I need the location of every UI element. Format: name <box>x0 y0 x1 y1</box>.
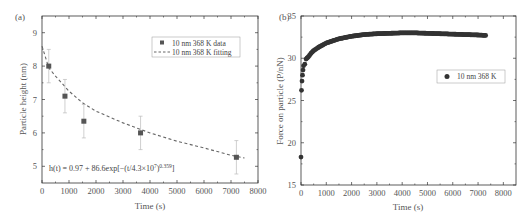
panel-b-chart: (b) 010002000300040005000600070008000 15… <box>275 11 516 212</box>
x-tick-label: 6000 <box>444 188 461 198</box>
y-tick-label: 8 <box>33 61 37 71</box>
x-tick-label: 6000 <box>196 186 213 196</box>
x-tick-label: 7000 <box>470 188 487 198</box>
square-marker-icon <box>160 41 164 45</box>
x-tick-label: 1000 <box>61 186 78 196</box>
y-tick-label: 15 <box>288 180 297 190</box>
data-point <box>46 64 51 69</box>
legend-item-fitting: 10 nm 368 K fitting <box>172 48 232 57</box>
legend-item-series: 10 nm 368 K <box>457 72 497 81</box>
y-tick-label: 25 <box>288 96 297 106</box>
x-tick-label: 2000 <box>343 188 360 198</box>
x-tick-label: 3000 <box>368 188 385 198</box>
circle-marker-icon <box>445 74 450 79</box>
panel-a-fit-line <box>42 46 245 158</box>
panel-a-chart: (a) 010002000300040005000600070008000 56… <box>15 12 267 211</box>
x-tick-label: 8000 <box>250 186 267 196</box>
panel-b-y-axis: 1520253035 <box>288 11 517 190</box>
panel-a-label: (a) <box>15 12 25 22</box>
panel-a-legend: 10 nm 368 K data 10 nm 368 K fitting <box>152 37 240 57</box>
panel-a-x-axis-title: Time (s) <box>135 201 165 211</box>
x-tick-label: 3000 <box>115 186 132 196</box>
x-tick-label: 7000 <box>223 186 240 196</box>
data-point <box>62 94 67 99</box>
panel-a-data-points <box>46 49 239 174</box>
legend-item-data: 10 nm 368 K data <box>172 39 226 48</box>
x-tick-label: 4000 <box>142 186 159 196</box>
data-point <box>138 130 143 135</box>
y-tick-label: 5 <box>33 161 37 171</box>
fit-equation: h(t) = 0.97 + 86.6exp[−(t/4.3×107)0.359] <box>49 163 175 173</box>
panel-b-y-axis-title: Force on particle (P/nN) <box>275 57 285 145</box>
x-tick-label: 8000 <box>495 188 512 198</box>
y-tick-label: 35 <box>288 11 297 21</box>
data-point <box>81 119 86 124</box>
y-tick-label: 7 <box>33 95 37 105</box>
x-tick-label: 5000 <box>169 186 186 196</box>
panel-b-legend: 10 nm 368 K <box>437 70 505 83</box>
panel-b-x-axis-title: Time (s) <box>393 202 423 212</box>
x-tick-label: 0 <box>299 188 303 198</box>
x-tick-label: 1000 <box>318 188 335 198</box>
panel-a-y-axis-title: Particle height (nm) <box>18 63 28 135</box>
chart-figure: (a) 010002000300040005000600070008000 56… <box>0 0 531 223</box>
y-tick-label: 9 <box>33 28 37 38</box>
y-tick-label: 6 <box>33 128 37 138</box>
x-tick-label: 5000 <box>419 188 436 198</box>
x-tick-label: 4000 <box>394 188 411 198</box>
x-tick-label: 2000 <box>88 186 105 196</box>
y-tick-label: 20 <box>288 138 297 148</box>
panel-b-data-points <box>299 31 488 160</box>
data-point <box>234 155 239 160</box>
y-tick-label: 30 <box>288 53 297 63</box>
x-tick-label: 0 <box>40 186 44 196</box>
